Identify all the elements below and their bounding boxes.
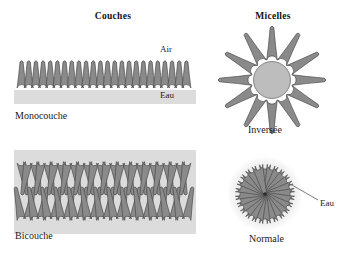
lipid-inverted-micelle bbox=[277, 33, 299, 65]
inverted-micelle-core bbox=[254, 62, 291, 99]
structure-label-inversee: Inversée bbox=[248, 124, 282, 135]
lipid-inverted-micelle bbox=[267, 26, 277, 60]
normal-micelle-center bbox=[263, 192, 267, 196]
phase-label-eau-micelle: Eau bbox=[320, 198, 334, 208]
lipid-inverted-micelle bbox=[287, 85, 319, 107]
structure-label-normale: Normale bbox=[249, 233, 284, 244]
lipid-assembly-diagram: Couches Micelles Monocouche Bicouche Inv… bbox=[0, 0, 353, 261]
phase-label-eau-monolayer: Eau bbox=[160, 90, 174, 100]
lipid-inverted-micelle bbox=[225, 52, 257, 74]
diagram-canvas bbox=[0, 0, 353, 261]
structure-label-monocouche: Monocouche bbox=[15, 110, 67, 121]
lipid-inverted-micelle bbox=[292, 75, 326, 85]
lipid-inverted-micelle bbox=[287, 52, 319, 74]
lipid-inverted-micelle bbox=[244, 95, 266, 127]
phase-label-air: Air bbox=[160, 44, 172, 54]
inverted-micelle-structure bbox=[218, 26, 326, 134]
lipid-inverted-micelle bbox=[225, 85, 257, 107]
monolayer-structure bbox=[17, 61, 191, 88]
lipid-monolayer bbox=[182, 61, 191, 88]
lipid-inverted-micelle bbox=[277, 95, 299, 127]
lipid-inverted-micelle bbox=[244, 33, 266, 65]
lipid-inverted-micelle bbox=[218, 75, 252, 85]
structure-label-bicouche: Bicouche bbox=[15, 230, 53, 241]
